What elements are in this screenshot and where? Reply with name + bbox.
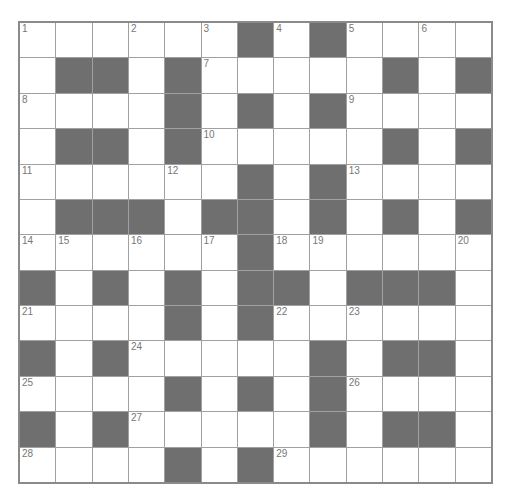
answer-cell[interactable] — [419, 235, 454, 269]
answer-cell[interactable] — [274, 94, 309, 128]
answer-cell[interactable] — [383, 235, 418, 269]
answer-cell[interactable] — [165, 235, 200, 269]
answer-cell[interactable] — [347, 200, 382, 234]
answer-cell[interactable] — [202, 412, 237, 446]
answer-cell[interactable] — [456, 94, 491, 128]
answer-cell[interactable] — [165, 412, 200, 446]
answer-cell[interactable]: 13 — [347, 165, 382, 199]
answer-cell[interactable] — [238, 341, 273, 375]
answer-cell[interactable]: 8 — [20, 94, 55, 128]
answer-cell[interactable] — [56, 341, 91, 375]
answer-cell[interactable] — [274, 58, 309, 92]
answer-cell[interactable] — [129, 129, 164, 163]
answer-cell[interactable]: 1 — [20, 23, 55, 57]
answer-cell[interactable] — [238, 58, 273, 92]
answer-cell[interactable] — [129, 377, 164, 411]
answer-cell[interactable]: 26 — [347, 377, 382, 411]
answer-cell[interactable] — [165, 341, 200, 375]
answer-cell[interactable] — [165, 23, 200, 57]
answer-cell[interactable]: 23 — [347, 306, 382, 340]
answer-cell[interactable] — [456, 448, 491, 482]
answer-cell[interactable]: 24 — [129, 341, 164, 375]
answer-cell[interactable] — [202, 377, 237, 411]
answer-cell[interactable] — [419, 58, 454, 92]
answer-cell[interactable] — [93, 448, 128, 482]
answer-cell[interactable] — [165, 200, 200, 234]
answer-cell[interactable]: 6 — [419, 23, 454, 57]
answer-cell[interactable] — [419, 129, 454, 163]
answer-cell[interactable] — [20, 129, 55, 163]
answer-cell[interactable] — [274, 377, 309, 411]
answer-cell[interactable] — [20, 58, 55, 92]
answer-cell[interactable] — [274, 341, 309, 375]
answer-cell[interactable] — [310, 271, 345, 305]
answer-cell[interactable]: 27 — [129, 412, 164, 446]
answer-cell[interactable] — [419, 200, 454, 234]
answer-cell[interactable] — [202, 165, 237, 199]
answer-cell[interactable] — [274, 412, 309, 446]
answer-cell[interactable]: 21 — [20, 306, 55, 340]
answer-cell[interactable]: 19 — [310, 235, 345, 269]
answer-cell[interactable] — [56, 165, 91, 199]
answer-cell[interactable] — [383, 306, 418, 340]
answer-cell[interactable] — [202, 306, 237, 340]
answer-cell[interactable] — [93, 165, 128, 199]
answer-cell[interactable] — [56, 306, 91, 340]
answer-cell[interactable] — [56, 94, 91, 128]
answer-cell[interactable]: 4 — [274, 23, 309, 57]
answer-cell[interactable]: 15 — [56, 235, 91, 269]
answer-cell[interactable] — [456, 271, 491, 305]
answer-cell[interactable] — [456, 377, 491, 411]
answer-cell[interactable] — [383, 377, 418, 411]
answer-cell[interactable]: 17 — [202, 235, 237, 269]
answer-cell[interactable] — [347, 129, 382, 163]
answer-cell[interactable] — [347, 341, 382, 375]
answer-cell[interactable] — [310, 306, 345, 340]
answer-cell[interactable] — [347, 412, 382, 446]
answer-cell[interactable] — [383, 94, 418, 128]
answer-cell[interactable] — [129, 271, 164, 305]
answer-cell[interactable]: 14 — [20, 235, 55, 269]
answer-cell[interactable]: 10 — [202, 129, 237, 163]
answer-cell[interactable] — [456, 341, 491, 375]
answer-cell[interactable] — [56, 448, 91, 482]
answer-cell[interactable]: 20 — [456, 235, 491, 269]
answer-cell[interactable] — [56, 412, 91, 446]
answer-cell[interactable] — [129, 58, 164, 92]
answer-cell[interactable]: 2 — [129, 23, 164, 57]
answer-cell[interactable] — [20, 200, 55, 234]
answer-cell[interactable] — [383, 448, 418, 482]
answer-cell[interactable] — [347, 448, 382, 482]
answer-cell[interactable] — [310, 58, 345, 92]
answer-cell[interactable]: 29 — [274, 448, 309, 482]
answer-cell[interactable] — [383, 165, 418, 199]
answer-cell[interactable] — [93, 94, 128, 128]
answer-cell[interactable] — [238, 412, 273, 446]
answer-cell[interactable] — [274, 200, 309, 234]
answer-cell[interactable] — [383, 23, 418, 57]
answer-cell[interactable] — [56, 271, 91, 305]
answer-cell[interactable] — [129, 448, 164, 482]
answer-cell[interactable] — [347, 235, 382, 269]
answer-cell[interactable] — [93, 306, 128, 340]
answer-cell[interactable] — [93, 23, 128, 57]
answer-cell[interactable] — [129, 165, 164, 199]
answer-cell[interactable]: 9 — [347, 94, 382, 128]
answer-cell[interactable]: 12 — [165, 165, 200, 199]
answer-cell[interactable] — [456, 412, 491, 446]
answer-cell[interactable]: 22 — [274, 306, 309, 340]
answer-cell[interactable] — [202, 271, 237, 305]
answer-cell[interactable]: 16 — [129, 235, 164, 269]
answer-cell[interactable]: 28 — [20, 448, 55, 482]
answer-cell[interactable] — [129, 94, 164, 128]
answer-cell[interactable] — [419, 448, 454, 482]
answer-cell[interactable] — [56, 377, 91, 411]
answer-cell[interactable] — [202, 448, 237, 482]
answer-cell[interactable] — [456, 165, 491, 199]
answer-cell[interactable] — [93, 235, 128, 269]
answer-cell[interactable] — [419, 94, 454, 128]
answer-cell[interactable] — [419, 377, 454, 411]
answer-cell[interactable] — [347, 58, 382, 92]
answer-cell[interactable]: 7 — [202, 58, 237, 92]
answer-cell[interactable] — [419, 165, 454, 199]
